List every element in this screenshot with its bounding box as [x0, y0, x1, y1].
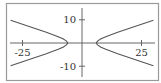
x-tick-label: -25	[14, 47, 30, 58]
hyperbola-plot: -252510-10	[0, 0, 161, 83]
y-tick-label: 10	[63, 14, 76, 25]
y-tick-label: -10	[60, 61, 76, 72]
x-tick-label: 25	[135, 47, 148, 58]
